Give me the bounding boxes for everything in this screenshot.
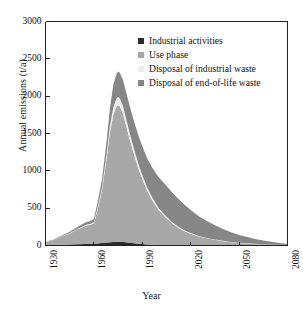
legend-swatch-icon — [138, 52, 144, 58]
legend-label: Disposal of end-of-life waste — [149, 78, 261, 88]
legend-label: Disposal of industrial waste — [149, 64, 256, 74]
legend-item: Disposal of industrial waste — [138, 64, 261, 74]
legend-label: Use phase — [149, 50, 188, 60]
legend-label: Industrial activities — [149, 36, 223, 46]
legend-swatch-icon — [138, 80, 144, 86]
chart-legend: Industrial activitiesUse phaseDisposal o… — [138, 36, 261, 88]
chart-figure: Annual emissions (t/a) Year 050010001500… — [0, 0, 303, 310]
legend-swatch-icon — [138, 66, 144, 72]
legend-swatch-icon — [138, 38, 144, 44]
legend-item: Disposal of end-of-life waste — [138, 78, 261, 88]
area-series-1 — [46, 105, 288, 245]
legend-item: Use phase — [138, 50, 261, 60]
legend-item: Industrial activities — [138, 36, 261, 46]
